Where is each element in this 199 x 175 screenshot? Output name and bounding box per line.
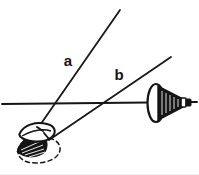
right-top-tip [186,99,191,106]
label-b: b [114,66,123,83]
figure-canvas: a b [0,0,199,175]
bottom-edge-divider [0,174,199,175]
label-a: a [64,52,73,69]
right-top-collar [181,98,186,107]
spinning-top-diagram: a b [0,0,199,175]
